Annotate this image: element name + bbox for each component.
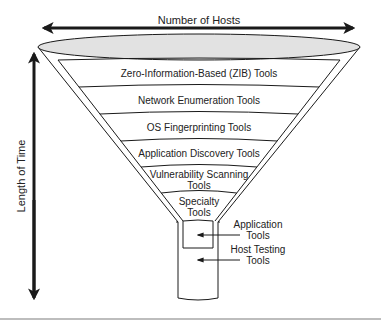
callout-label: Application [234,219,283,230]
band-label: Specialty [179,196,220,207]
callout-label: Tools [246,255,269,266]
band-label: Application Discovery Tools [138,148,260,159]
bottom-rule [0,318,381,320]
callout-label: Tools [246,230,269,241]
band-label: Network Enumeration Tools [138,95,260,106]
band-label: Zero-Information-Based (ZIB) Tools [121,68,278,79]
band-label: Vulnerability Scanning [150,169,249,180]
band-label: Tools [187,180,210,191]
length-of-time-label: Length of Time [15,140,27,213]
callout-label: Host Testing [231,244,286,255]
band-label: OS Fingerprinting Tools [147,122,251,133]
band-label: Tools [187,207,210,218]
funnel-top-opening [38,34,360,60]
number-of-hosts-label: Number of Hosts [158,14,241,26]
tools-funnel-diagram: Number of Hosts Length of Time Zero-Info… [0,0,381,321]
